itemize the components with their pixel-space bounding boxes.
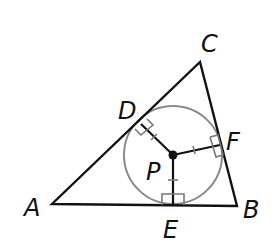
label-f: F: [226, 128, 241, 156]
label-b: B: [243, 196, 259, 224]
diagram-canvas: A B C D E F P: [0, 0, 277, 249]
tick-mark-pf: [193, 146, 195, 154]
label-c: C: [201, 30, 218, 58]
label-p: P: [146, 158, 161, 186]
center-point-p: [169, 151, 178, 160]
triangle-abc: [52, 62, 237, 206]
triangle-incircle-figure: A B C D E F P: [0, 0, 277, 249]
label-a: A: [22, 194, 40, 222]
segment-pd: [141, 124, 173, 155]
label-d: D: [118, 97, 136, 125]
label-e: E: [163, 216, 179, 244]
